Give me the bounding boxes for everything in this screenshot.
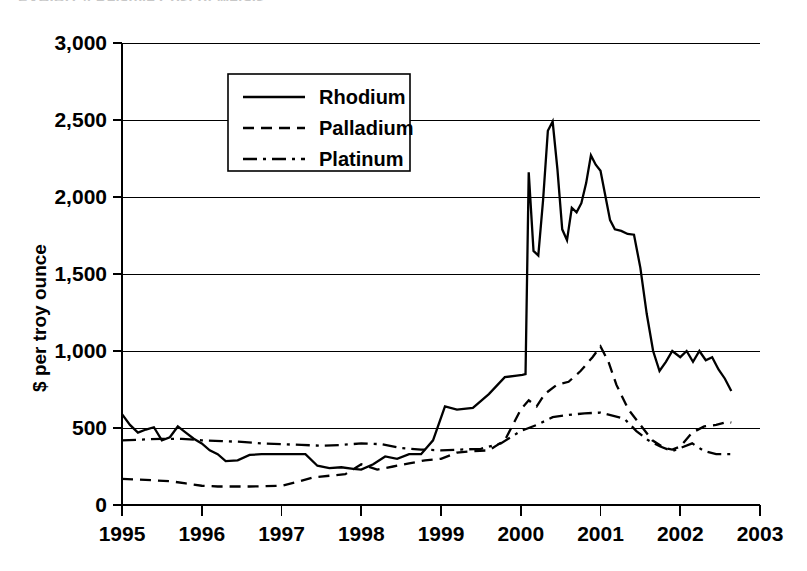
x-tick-label: 1996 [178, 522, 225, 545]
x-tick-label: 1997 [258, 522, 305, 545]
y-tick-label: 500 [72, 416, 107, 439]
line-chart: 05001,0001,5002,0002,5003,000 1995199619… [0, 0, 807, 571]
series-line-rhodium [122, 122, 731, 470]
y-tick-label: 0 [95, 493, 107, 516]
y-axis-ticks: 05001,0001,5002,0002,5003,000 [54, 31, 122, 516]
x-tick-label: 2003 [737, 522, 784, 545]
series-line-palladium [122, 346, 731, 486]
x-tick-label: 2001 [577, 522, 624, 545]
y-tick-label: 3,000 [54, 31, 107, 54]
chart-legend: RhodiumPalladiumPlatinum [228, 74, 413, 171]
y-tick-label: 2,500 [54, 108, 107, 131]
legend-label-platinum: Platinum [319, 148, 403, 170]
x-tick-label: 1999 [418, 522, 465, 545]
y-tick-label: 2,000 [54, 185, 107, 208]
x-tick-label: 1998 [338, 522, 385, 545]
y-tick-label: 1,000 [54, 339, 107, 362]
x-tick-label: 2000 [497, 522, 544, 545]
data-series-group [122, 122, 731, 487]
gridlines [122, 43, 760, 428]
x-tick-label: 2002 [657, 522, 704, 545]
legend-label-palladium: Palladium [319, 117, 413, 139]
legend-label-rhodium: Rhodium [319, 86, 406, 108]
x-tick-label: 1995 [99, 522, 146, 545]
y-axis-title: $ per troy ounce [29, 244, 50, 392]
y-tick-label: 1,500 [54, 262, 107, 285]
x-axis-ticks: 199519961997199819992000200120022003 [99, 505, 784, 545]
chart-figure: EXHIBIT 4 Relative Cost of Metals 05001,… [0, 0, 807, 571]
